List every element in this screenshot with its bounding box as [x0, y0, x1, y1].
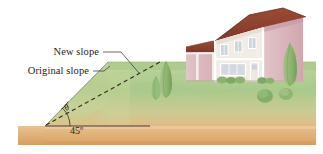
soil-cut-face [18, 126, 45, 145]
soil-base [18, 126, 323, 145]
window-upper-3 [248, 37, 257, 49]
label-original-slope: Original slope [28, 65, 89, 76]
window-upper-1 [220, 44, 229, 56]
slope-diagram-figure: 45º θ New slope Original slope [0, 0, 323, 154]
round-bush-a [257, 89, 273, 103]
window-upper-2 [234, 41, 243, 53]
illustration-canvas: 45º θ New slope Original slope [0, 0, 323, 154]
front-door [250, 62, 259, 81]
label-new-slope: New slope [53, 46, 99, 57]
angle-label-45: 45º [70, 125, 83, 136]
round-bush-b [279, 88, 293, 100]
picture-window [220, 63, 246, 76]
